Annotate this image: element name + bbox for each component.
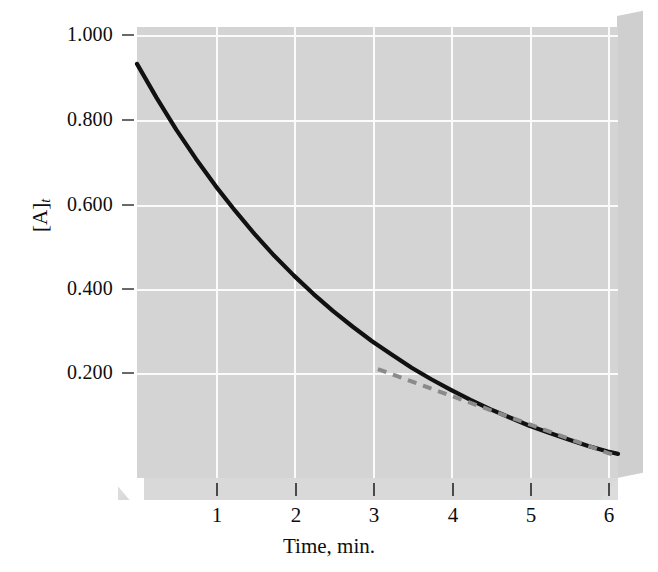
y-tick-label-0800: 0.800 (0, 108, 113, 131)
y-tick-label-1000: 1.000 (0, 23, 113, 46)
y-tick-0200 (122, 372, 134, 374)
y-axis-title-subscript: t (38, 199, 53, 203)
y-tick-label-0600: 0.600 (0, 193, 113, 216)
y-tick-label-0400: 0.400 (0, 277, 113, 300)
x-tick-label-6: 6 (589, 503, 629, 528)
y-tick-0600 (122, 204, 134, 206)
panel-right-face-3d (617, 11, 643, 478)
y-tick-0800 (122, 119, 134, 121)
panel-base-skew-3d (119, 478, 618, 500)
decay-curve-path (137, 64, 618, 454)
x-tick-3 (373, 483, 375, 496)
x-tick-1 (216, 483, 218, 496)
plot-area (137, 27, 618, 478)
x-tick-label-4: 4 (433, 503, 473, 528)
y-axis-title-main: [A] (28, 203, 52, 232)
y-tick-label-0200: 0.200 (0, 361, 113, 384)
x-tick-4 (452, 483, 454, 496)
x-tick-label-1: 1 (197, 503, 237, 528)
x-tick-6 (608, 483, 610, 496)
x-tick-5 (530, 483, 532, 496)
x-tick-label-5: 5 (511, 503, 551, 528)
x-tick-label-2: 2 (276, 503, 316, 528)
plot-series-svg (137, 27, 618, 478)
x-tick-2 (295, 483, 297, 496)
y-tick-0400 (122, 288, 134, 290)
y-axis-title: [A]t (28, 199, 54, 232)
x-axis-title: Time, min. (0, 534, 658, 559)
x-tick-label-3: 3 (354, 503, 394, 528)
chart-figure: 1.000 0.800 0.600 0.400 0.200 1 2 3 4 5 … (0, 0, 658, 572)
y-tick-1000 (122, 34, 134, 36)
